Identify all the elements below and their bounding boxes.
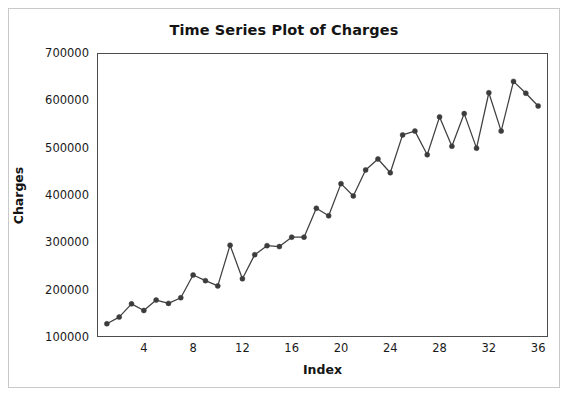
data-point-marker [178, 295, 183, 300]
data-point-marker [252, 252, 257, 257]
data-point-marker [338, 181, 343, 186]
x-axis-title: Index [97, 362, 548, 377]
data-point-marker [412, 129, 417, 134]
data-point-marker [277, 244, 282, 249]
data-point-marker [400, 132, 405, 137]
x-axis-tick-label: 36 [531, 341, 546, 355]
data-point-marker [154, 298, 159, 303]
y-axis-tick-label: 200000 [45, 283, 89, 297]
data-point-marker [511, 79, 516, 84]
data-point-marker [486, 90, 491, 95]
data-point-marker [265, 243, 270, 248]
y-axis-tick-label: 400000 [45, 188, 89, 202]
data-point-marker [117, 315, 122, 320]
chart-title: Time Series Plot of Charges [0, 22, 568, 38]
data-point-marker [388, 170, 393, 175]
y-axis-tick-label: 600000 [45, 93, 89, 107]
data-point-marker [215, 283, 220, 288]
data-point-marker [326, 213, 331, 218]
data-point-marker [375, 157, 380, 162]
data-point-marker [166, 301, 171, 306]
data-point-marker [462, 111, 467, 116]
plot-area [97, 53, 548, 337]
data-point-marker [314, 206, 319, 211]
x-axis-tick-label: 12 [235, 341, 250, 355]
data-point-marker [437, 114, 442, 119]
data-point-marker [499, 129, 504, 134]
x-axis-tick-label-group: 4812162024283236 [97, 341, 548, 359]
x-axis-tick-label: 28 [432, 341, 447, 355]
data-point-marker [425, 152, 430, 157]
plot-frame [98, 54, 548, 337]
x-axis-tick-label: 32 [482, 341, 497, 355]
time-series-figure: Time Series Plot of Charges Charges 1000… [0, 0, 568, 396]
data-point-marker [363, 167, 368, 172]
x-axis-tick-label: 8 [189, 341, 196, 355]
y-axis-tick-label: 300000 [45, 235, 89, 249]
plot-svg [97, 53, 548, 337]
data-point-marker [289, 235, 294, 240]
data-point-marker [141, 308, 146, 313]
data-point-marker [203, 278, 208, 283]
data-point-marker [523, 91, 528, 96]
x-axis-tick-label: 24 [383, 341, 398, 355]
x-axis-tick-label: 20 [334, 341, 349, 355]
data-point-marker [536, 104, 541, 109]
data-point-marker [449, 144, 454, 149]
data-point-marker [228, 243, 233, 248]
data-point-marker [474, 146, 479, 151]
x-axis-tick-label: 4 [140, 341, 147, 355]
y-axis-tick-label: 500000 [45, 141, 89, 155]
data-point-marker [351, 193, 356, 198]
data-point-marker [104, 321, 109, 326]
x-axis-tick-label: 16 [284, 341, 299, 355]
y-axis-tick-label: 100000 [45, 330, 89, 344]
data-point-marker [240, 276, 245, 281]
y-axis-tick-label: 700000 [45, 46, 89, 60]
data-point-marker [129, 301, 134, 306]
data-point-marker [302, 235, 307, 240]
y-axis-tick-label-group: 1000002000003000004000005000006000007000… [0, 53, 89, 337]
data-point-marker [191, 272, 196, 277]
